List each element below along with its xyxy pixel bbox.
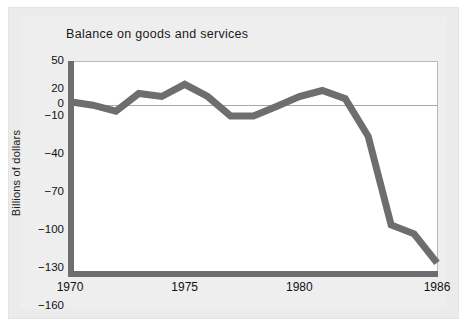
y-axis-tick-neg130: −130 bbox=[20, 262, 64, 274]
x-axis-tick-1970: 1970 bbox=[57, 281, 84, 293]
chart-title: Balance on goods and services bbox=[66, 27, 248, 41]
x-axis-tick-1980: 1980 bbox=[286, 281, 313, 293]
y-axis-tick-50: 50 bbox=[20, 55, 64, 67]
y-axis-tick-neg160: −160 bbox=[20, 300, 64, 312]
series-line-balance-on-goods-and-services bbox=[68, 61, 438, 277]
x-axis-tick-1975: 1975 bbox=[171, 281, 198, 293]
y-axis-tick-neg40: −40 bbox=[20, 148, 64, 160]
y-axis-tick-0: 0 bbox=[20, 98, 64, 110]
x-axis-tick-1986: 1986 bbox=[424, 281, 451, 293]
y-axis-tick-neg100: −100 bbox=[20, 224, 64, 236]
chart-figure: Balance on goods and services Billions o… bbox=[0, 0, 467, 327]
y-axis-tick-20: 20 bbox=[20, 83, 64, 95]
y-axis-tick-labels: 50200−10−40−70−100−130−160 bbox=[20, 0, 64, 327]
plot-area bbox=[68, 61, 438, 277]
y-axis-tick-neg10: −10 bbox=[20, 110, 64, 122]
y-axis-tick-neg70: −70 bbox=[20, 186, 64, 198]
